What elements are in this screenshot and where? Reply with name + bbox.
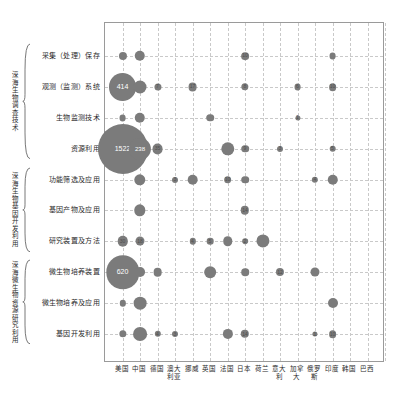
data-bubble (204, 266, 216, 278)
grid-line-vertical (333, 23, 334, 361)
bubble-value-label: 414 (117, 83, 129, 90)
bubble-value-label: 1 (296, 114, 299, 120)
data-bubble (221, 142, 234, 155)
data-bubble (329, 52, 336, 59)
bubble-value-label: 1 (314, 331, 317, 337)
bubble-value-label: 3 (174, 331, 177, 337)
data-bubble (153, 268, 162, 277)
x-axis-label-line: 巴西 (356, 365, 378, 373)
row-label: 微生物培养及应用 (42, 297, 100, 307)
x-axis-labels: 美国中国德国澳大利亚挪威英国法国日本荷兰意大利加拿大俄罗斯印度韩国巴西 (104, 365, 384, 398)
grid-line-vertical (140, 23, 141, 361)
row-label: 生物监测技术 (56, 112, 100, 122)
bubble-value-label: 10 (330, 83, 336, 89)
bubble-value-label: 4 (156, 331, 159, 337)
data-bubble (118, 52, 126, 60)
data-bubble (135, 112, 145, 122)
grid-line-vertical (263, 23, 264, 361)
row-label: 观测（监测）系统 (42, 81, 100, 91)
data-bubble (311, 268, 320, 277)
data-bubble (241, 269, 249, 277)
grid-line-horizontal (105, 118, 383, 119)
bubble-value-label: 8 (244, 83, 247, 89)
data-bubble (134, 297, 147, 310)
grid-line-vertical (315, 23, 316, 361)
data-bubble (119, 114, 126, 121)
data-bubble (206, 114, 214, 122)
bubble-value-label: 5 (209, 238, 212, 244)
bubble-value-label: 620 (117, 269, 129, 276)
bubble-value-label: 18 (137, 238, 143, 244)
grid-line-vertical (158, 23, 159, 361)
bubble-value-label: 14 (242, 331, 248, 337)
bubble-value-label: 4 (191, 238, 194, 244)
data-bubble (135, 51, 145, 61)
bubble-value-label: 17 (190, 83, 196, 89)
row-label-column: 采集（处理）保存观测（监测）系统生物监测技术资源利用功能筛选及应用基因产物及应用… (0, 0, 100, 398)
data-bubble (241, 176, 249, 184)
data-bubble (135, 267, 145, 277)
bubble-value-label: 3 (174, 176, 177, 182)
bubble-value-label: 35 (155, 145, 161, 151)
row-label: 基因开发利用 (56, 328, 100, 338)
grid-line-vertical (385, 23, 386, 361)
row-label: 资源利用 (71, 143, 100, 153)
bubble-value-label: 238 (135, 146, 145, 152)
data-bubble (134, 174, 145, 185)
x-axis-label: 巴西 (356, 365, 378, 373)
row-label: 采集（处理）保存 (42, 50, 100, 60)
data-bubble (223, 237, 233, 247)
data-bubble: 414 (109, 73, 137, 101)
data-bubble (119, 300, 125, 306)
grid-line-vertical (368, 23, 369, 361)
grid-line-vertical (350, 23, 351, 361)
bubble-value-label: 6 (296, 83, 299, 89)
bubble-value-label: 2 (244, 238, 247, 244)
bubble-value-label: 10 (225, 176, 231, 182)
bubble-value-label: 10 (330, 331, 336, 337)
bubble-value-label: 9 (244, 145, 247, 151)
data-bubble (222, 329, 232, 339)
data-bubble (327, 174, 337, 184)
bubble-value-label: 12 (277, 269, 283, 275)
bubble-matrix-chart: 深海生物调查技术深海生物基因开发利用深海微生物资源研究利用 采集（处理）保存观测… (0, 0, 393, 398)
grid-line-vertical (280, 23, 281, 361)
bubble-value-label: 3 (279, 145, 282, 151)
row-label: 微生物培养装置 (49, 266, 100, 276)
grid-line-vertical (175, 23, 176, 361)
bubble-value-label: 14 (242, 207, 248, 213)
data-bubble (328, 298, 338, 308)
grid-line-horizontal (105, 303, 383, 304)
data-bubble (187, 174, 198, 185)
data-bubble (134, 80, 147, 93)
grid-line-vertical (193, 23, 194, 361)
x-axis-label-line: 斯 (303, 373, 325, 381)
grid-line-vertical (228, 23, 229, 361)
data-bubble (133, 327, 147, 341)
bubble-value-label: 7 (156, 83, 159, 89)
data-bubble (256, 235, 269, 248)
plot-area: 1041471786101152223835935310414301845262… (104, 22, 384, 362)
grid-line-vertical (298, 23, 299, 361)
row-label: 功能筛选及应用 (49, 174, 100, 184)
x-axis-label-line: 利亚 (163, 373, 185, 381)
grid-line-vertical (210, 23, 211, 361)
row-label: 研究装置及方法 (49, 235, 100, 245)
bubble-value-label: 4 (314, 176, 317, 182)
bubble-value-label: 30 (120, 238, 126, 244)
data-bubble (134, 205, 145, 216)
data-bubble: 238 (129, 138, 151, 160)
row-label: 基因产物及应用 (49, 204, 100, 214)
bubble-value-label: 10 (242, 52, 248, 58)
data-bubble (119, 330, 126, 337)
grid-line-vertical (245, 23, 246, 361)
bubble-value-label: 5 (331, 145, 334, 151)
